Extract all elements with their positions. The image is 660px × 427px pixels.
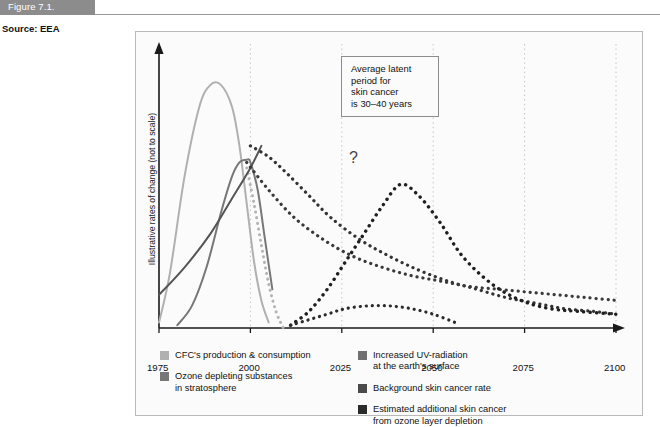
header-divider — [95, 14, 660, 15]
legend-label: Ozone depleting substancesin stratospher… — [175, 371, 292, 394]
legend-item[interactable]: Estimated additional skin cancerfrom ozo… — [358, 404, 506, 427]
axis-ticks — [159, 328, 616, 333]
annotation-line-1: period for — [351, 75, 430, 87]
annotation-line-0: Average latent — [351, 63, 430, 75]
legend-swatch — [358, 405, 367, 414]
source-label: Source: EEA — [2, 23, 60, 34]
chart-legend: CFC's production & consumptionOzone depl… — [160, 350, 630, 412]
figure-number-label: Figure 7.1. — [8, 1, 55, 12]
uncertainty-question-mark: ? — [349, 150, 358, 166]
legend-item[interactable]: Ozone depleting substancesin stratospher… — [160, 371, 292, 394]
legend-swatch — [160, 372, 169, 381]
legend-label: Increased UV-radiationat the earth's sur… — [373, 350, 468, 373]
legend-item[interactable]: CFC's production & consumption — [160, 350, 311, 361]
data-series — [159, 82, 616, 328]
legend-label: Background skin cancer rate — [373, 383, 491, 394]
annotation-line-2: skin cancer — [351, 86, 430, 98]
latency-annotation: Average latent period for skin cancer is… — [341, 56, 439, 117]
legend-swatch — [358, 351, 367, 360]
series-line — [159, 82, 269, 322]
series-line — [247, 162, 616, 300]
series-line — [291, 306, 456, 326]
legend-item[interactable]: Increased UV-radiationat the earth's sur… — [358, 350, 468, 373]
chart-container: Illustrative rates of change (not to sca… — [135, 31, 643, 416]
series-line — [177, 159, 272, 325]
legend-swatch — [358, 384, 367, 393]
annotation-line-3: is 30–40 years — [351, 98, 430, 110]
legend-label: CFC's production & consumption — [175, 350, 311, 361]
series-line — [291, 184, 616, 325]
legend-swatch — [160, 351, 169, 360]
legend-item[interactable]: Background skin cancer rate — [358, 383, 491, 394]
legend-label: Estimated additional skin cancerfrom ozo… — [373, 404, 506, 427]
